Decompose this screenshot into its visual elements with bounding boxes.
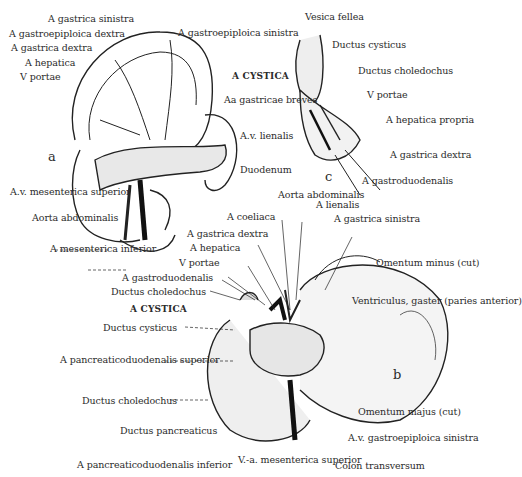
label-b-ductus-choledochus-bottom: Ductus choledochus	[82, 396, 177, 405]
label-b-ventriculus: Ventriculus, gaster (paries anterior)	[352, 296, 522, 305]
label-b-coeliaca: A coeliaca	[227, 212, 275, 221]
label-b-aorta-abdominalis: Aorta abdominalis	[278, 190, 364, 199]
label-a-gastroepiploica-dextra: A gastroepiploica dextra	[9, 29, 125, 38]
label-a-mesenterica-inferior: A mesenterica inferior	[50, 244, 156, 253]
label-b-omentum-majus: Omentum majus (cut)	[358, 407, 461, 416]
label-b-panc-superior: A pancreaticoduodenalis superior	[60, 355, 220, 364]
pancreas-a	[95, 145, 226, 190]
label-a-av-mesenterica-superior: A.v. mesenterica superior	[10, 187, 131, 196]
label-b-ductus-cysticus: Ductus cysticus	[103, 323, 177, 332]
label-b-lienalis: A lienalis	[316, 200, 359, 209]
label-c-gastrica-dextra: A gastrica dextra	[390, 150, 471, 159]
label-b-ductus-choledochus-top: Ductus choledochus	[111, 287, 206, 296]
label-b-omentum-minus: Omentum minus (cut)	[376, 258, 479, 267]
label-b-gastrica-sinistra: A gastrica sinistra	[334, 214, 420, 223]
label-a-gastricae-breves: Aa gastricae breves	[224, 95, 317, 104]
label-b-ductus-pancreaticus: Ductus pancreaticus	[120, 426, 217, 435]
label-c-gastroduodenalis: A gastroduodenalis	[362, 176, 453, 185]
label-c-ductus-choledochus: Ductus choledochus	[358, 66, 453, 75]
stomach-outline-a	[72, 32, 212, 155]
label-b-gastrica-dextra: A gastrica dextra	[187, 229, 268, 238]
label-a-gastroepiploica-sinistra: A gastroepiploica sinistra	[178, 28, 299, 37]
label-c-duodenum: Duodenum	[240, 165, 292, 174]
label-b-panc-inferior: A pancreaticoduodenalis inferior	[77, 460, 232, 469]
label-b-hepatica: A hepatica	[190, 243, 240, 252]
label-c-vesica-fellea: Vesica fellea	[305, 12, 364, 21]
label-a-hepatica: A hepatica	[25, 58, 75, 67]
panel-label-c: c	[325, 172, 332, 181]
label-b-av-gastroepiploica-sinistra: A.v. gastroepiploica sinistra	[348, 433, 479, 442]
label-a-gastrica-dextra: A gastrica dextra	[11, 43, 92, 52]
label-b-a-cystica: A CYSTICA	[130, 305, 187, 314]
label-a-aorta-abdominalis: Aorta abdominalis	[32, 213, 118, 222]
label-c-a-cystica: A CYSTICA	[232, 72, 289, 81]
label-c-vportae: V portae	[367, 90, 408, 99]
label-b-vportae: V portae	[179, 258, 220, 267]
label-a-vportae: V portae	[20, 72, 61, 81]
label-b-gastroduodenalis: A gastroduodenalis	[122, 273, 213, 282]
label-c-ductus-cysticus: Ductus cysticus	[332, 40, 406, 49]
panel-label-b: b	[393, 370, 401, 379]
label-c-hepatica-propria: A hepatica propria	[386, 115, 474, 124]
panel-label-a: a	[48, 152, 56, 161]
label-b-colon-transversum: Colon transversum	[335, 461, 425, 470]
label-a-av-lienalis: A.v. lienalis	[240, 131, 293, 140]
label-a-gastrica-sinistra: A gastrica sinistra	[48, 14, 134, 23]
